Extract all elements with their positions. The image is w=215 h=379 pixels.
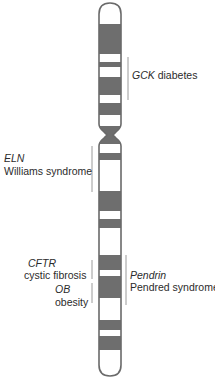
chromosome-diagram [0,0,215,379]
centromere [95,126,125,144]
disease-williams-syndrome: Williams syndrome [4,165,92,177]
disease-cystic-fibrosis: cystic fibrosis [24,269,86,281]
gene-eln: ELN [4,152,24,164]
gene-gck: GCK [132,69,155,81]
disease-pendred-syndrome: Pendred syndrome [130,281,215,293]
gck-annotation: GCK diabetes [132,69,197,81]
gene-cftr: CFTR [28,257,56,269]
gene-ob: OB [55,283,70,295]
disease-obesity: obesity [55,296,88,308]
disease-diabetes: diabetes [158,69,198,81]
gene-pendrin: Pendrin [130,269,166,281]
